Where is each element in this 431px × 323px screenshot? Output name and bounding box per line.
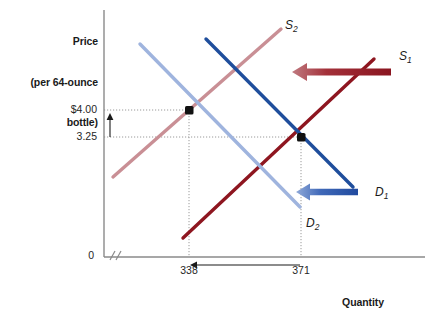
price-increase-arrow xyxy=(107,113,114,137)
curve-label-D2-sub: 2 xyxy=(315,222,320,232)
y-tick-label-3-25: 3.25 xyxy=(31,130,97,142)
curve-label-S2: S2 xyxy=(285,18,298,34)
x-axis-title-line-1: Quantity xyxy=(296,296,430,310)
equilibrium-marker-original xyxy=(297,133,306,142)
curve-S1 xyxy=(183,59,374,238)
supply-demand-chart: Price (per 64-ounce bottle) Quantity (mi… xyxy=(0,0,431,323)
curve-label-S1-text: S xyxy=(399,49,407,63)
curve-D1 xyxy=(206,39,353,187)
curve-label-D1-text: D xyxy=(375,185,384,199)
axis-lines xyxy=(104,10,425,260)
curve-label-S1: S1 xyxy=(399,49,412,65)
x-tick-label-371: 371 xyxy=(279,264,323,276)
y-tick-label-4-00: $4.00 xyxy=(31,103,97,115)
curve-D2 xyxy=(140,44,300,207)
guide-lines xyxy=(104,110,301,257)
demand-shift-arrow xyxy=(296,184,358,201)
origin-label: 0 xyxy=(74,249,94,261)
y-axis-title-line-1: Price xyxy=(0,35,98,49)
y-axis-title-line-3: bottle) xyxy=(0,116,98,130)
x-axis-title: Quantity (millions of 64-ounce bottles) xyxy=(296,269,430,323)
axis-break-marks xyxy=(110,251,121,260)
supply-shift-arrow xyxy=(292,63,391,81)
equilibrium-marker-new xyxy=(185,106,194,115)
curve-label-D2-text: D xyxy=(306,216,315,230)
y-axis-title-line-2: (per 64-ounce xyxy=(0,76,98,90)
x-tick-label-338: 338 xyxy=(167,264,211,276)
curve-label-S2-text: S xyxy=(285,18,293,32)
curve-label-D2: D2 xyxy=(306,216,319,232)
curve-label-D1: D1 xyxy=(375,185,388,201)
curve-label-S2-sub: 2 xyxy=(293,24,298,34)
curve-label-S1-sub: 1 xyxy=(407,55,412,65)
curve-label-D1-sub: 1 xyxy=(384,191,389,201)
